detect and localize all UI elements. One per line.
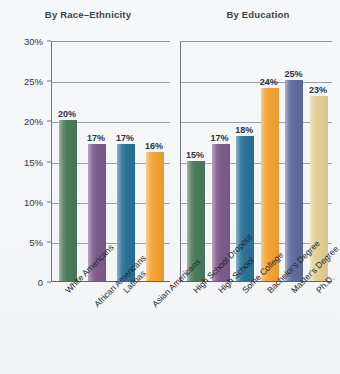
y-axis-tick-label: 20%: [24, 116, 43, 127]
bar-value-label: 25%: [284, 69, 302, 79]
y-axis-tick-label: 10%: [24, 196, 43, 207]
panel-title-education: By Education: [176, 9, 340, 20]
bar-value-label: 16%: [145, 141, 163, 151]
bar-value-label: 17%: [116, 133, 134, 143]
bar-value-label: 20%: [58, 109, 76, 119]
bar-value-label: 15%: [186, 150, 204, 160]
bar-value-label: 18%: [235, 125, 253, 135]
bar-highlight: [146, 152, 164, 281]
y-axis-tick-label: 0: [38, 277, 43, 288]
bar-value-label: 24%: [260, 77, 278, 87]
bar-highlight: [59, 120, 77, 281]
y-axis-tick-label: 5%: [29, 236, 43, 247]
y-axis-tick-label: 25%: [24, 76, 43, 87]
chart-figure: By Race–Ethnicity By Education 05%10%15%…: [0, 0, 340, 374]
bar-value-label: 17%: [87, 133, 105, 143]
bar-race-ethnicity-3[interactable]: [146, 152, 164, 281]
y-axis-tick-label: 15%: [24, 156, 43, 167]
y-axis-tick-label: 30%: [24, 36, 43, 47]
bar-value-label: 23%: [309, 85, 327, 95]
panel-title-race-ethnicity: By Race–Ethnicity: [0, 9, 176, 20]
bar-race-ethnicity-0[interactable]: [59, 120, 77, 281]
bar-value-label: 17%: [211, 133, 229, 143]
y-axis: 05%10%15%20%25%30%: [0, 41, 47, 282]
gridline: [181, 82, 332, 83]
gridline: [52, 82, 170, 83]
